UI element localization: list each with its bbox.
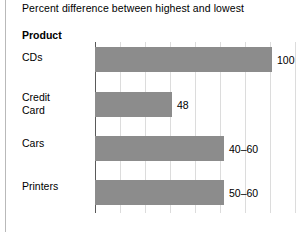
category-label-credit-card: Credit Card [22, 91, 50, 116]
plot-area: 100 48 40–60 50–60 [95, 42, 299, 213]
category-label-cars: Cars [22, 137, 44, 150]
bar-value-label-cds: 100 [277, 54, 295, 66]
gridline [295, 42, 296, 213]
page-frame-rule [5, 0, 6, 232]
category-axis-header: Product [22, 29, 62, 42]
category-label-printers: Printers [22, 180, 58, 193]
bar-printers [95, 180, 224, 205]
bar-cds [95, 47, 272, 72]
bar-value-label-cars: 40–60 [229, 143, 258, 155]
chart-title: Percent difference between highest and l… [22, 2, 244, 15]
category-label-cds: CDs [22, 51, 42, 64]
bar-credit-card [95, 92, 172, 117]
bar-value-label-printers: 50–60 [229, 187, 258, 199]
bar-cars [95, 136, 224, 161]
bar-value-label-credit-card: 48 [177, 99, 189, 111]
